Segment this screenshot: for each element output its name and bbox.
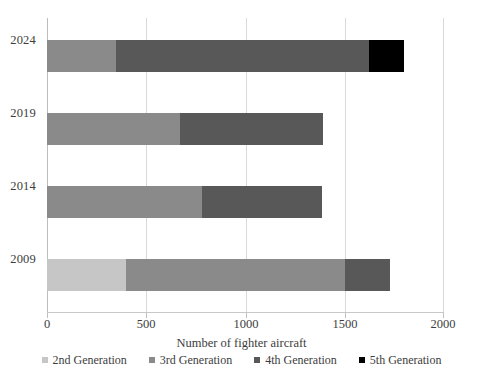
legend-label-3rd-generation: 3rd Generation	[160, 354, 232, 366]
legend-label-2nd-generation: 2nd Generation	[53, 354, 127, 366]
y-tick-label-2019: 2019	[0, 107, 36, 120]
bar-segment-2024-4th-generation[interactable]	[116, 40, 368, 72]
legend-swatch-icon-5th-generation	[359, 357, 365, 363]
bar-2014[interactable]	[47, 186, 322, 218]
bar-segment-2019-3rd-generation[interactable]	[47, 113, 180, 145]
x-tick-label-0: 0	[17, 318, 77, 331]
legend-swatch-icon-3rd-generation	[149, 357, 155, 363]
legend-swatch-icon-2nd-generation	[42, 357, 48, 363]
x-tick-label-1500: 1500	[315, 318, 375, 331]
x-axis-title: Number of fighter aircraft	[0, 336, 483, 351]
legend-swatch-icon-4th-generation	[254, 357, 260, 363]
legend-item-5th-generation[interactable]: 5th Generation	[359, 354, 442, 366]
y-tick-label-2009: 2009	[0, 253, 36, 266]
legend-item-2nd-generation[interactable]: 2nd Generation	[42, 354, 127, 366]
legend-label-5th-generation: 5th Generation	[370, 354, 442, 366]
y-tick-label-2014: 2014	[0, 180, 36, 193]
bar-2009[interactable]	[47, 259, 390, 291]
bar-segment-2009-4th-generation[interactable]	[345, 259, 391, 291]
bar-segment-2019-4th-generation[interactable]	[180, 113, 323, 145]
legend-item-4th-generation[interactable]: 4th Generation	[254, 354, 337, 366]
bar-segment-2014-3rd-generation[interactable]	[47, 186, 202, 218]
y-tick-label-2024: 2024	[0, 34, 36, 47]
legend-label-4th-generation: 4th Generation	[265, 354, 337, 366]
bar-2024[interactable]	[47, 40, 404, 72]
x-tick-label-2000: 2000	[413, 318, 473, 331]
gridline-2000	[443, 18, 444, 312]
chart-legend: 2nd Generation 3rd Generation 4th Genera…	[0, 354, 483, 366]
bar-2019[interactable]	[47, 113, 323, 145]
bar-segment-2024-3rd-generation[interactable]	[47, 40, 116, 72]
bar-segment-2009-2nd-generation[interactable]	[47, 259, 126, 291]
x-tick-label-500: 500	[116, 318, 176, 331]
stacked-bar-chart: 2024 2019 2014 2009 0 500 1000 1500 2000…	[0, 0, 483, 380]
plot-area	[47, 18, 444, 312]
bar-segment-2024-5th-generation[interactable]	[369, 40, 405, 72]
bar-segment-2014-4th-generation[interactable]	[202, 186, 322, 218]
legend-item-3rd-generation[interactable]: 3rd Generation	[149, 354, 232, 366]
x-tick-label-1000: 1000	[216, 318, 276, 331]
bar-segment-2009-3rd-generation[interactable]	[126, 259, 344, 291]
